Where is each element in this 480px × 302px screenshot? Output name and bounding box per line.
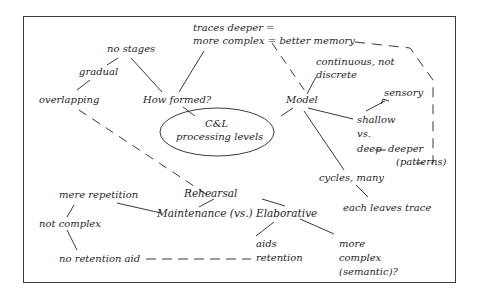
node-cycles-many: cycles, many	[319, 172, 384, 184]
node-each-leaves-trace: each leaves trace	[343, 202, 431, 214]
node-shallow: shallow	[357, 114, 396, 126]
center-subtitle: processing levels	[176, 131, 263, 143]
node-deeper: deeper	[388, 143, 423, 155]
node-gradual: gradual	[79, 66, 118, 78]
diagram-canvas: no stages gradual overlapping How formed…	[0, 0, 480, 302]
center-title: C&L	[205, 118, 228, 130]
node-overlapping: overlapping	[39, 94, 99, 106]
node-aids: aids	[256, 238, 277, 250]
node-how-formed: How formed?	[143, 94, 211, 106]
node-patterns: (patterns)	[396, 156, 446, 168]
node-more: more	[339, 238, 365, 250]
node-not-complex: not complex	[39, 218, 101, 230]
node-better-memory: more complex = better memory	[193, 35, 355, 47]
node-complex: complex	[339, 252, 381, 264]
node-continuous: continuous, not	[316, 56, 395, 68]
node-rehearsal: Rehearsal	[184, 187, 237, 199]
node-deep: deep	[357, 143, 382, 155]
node-vs: vs.	[357, 128, 371, 140]
node-no-retention-aid: no retention aid	[59, 253, 140, 265]
node-retention: retention	[256, 252, 303, 264]
node-traces-deeper: traces deeper =	[193, 22, 274, 34]
node-semantic: (semantic)?	[339, 266, 398, 278]
node-no-stages: no stages	[107, 43, 155, 55]
node-sensory: sensory	[384, 87, 423, 99]
node-discrete: discrete	[316, 69, 357, 81]
node-mere-repetition: mere repetition	[59, 189, 138, 201]
node-maintenance-elaborative: Maintenance (vs.) Elaborative	[157, 207, 317, 219]
node-model: Model	[286, 94, 318, 106]
